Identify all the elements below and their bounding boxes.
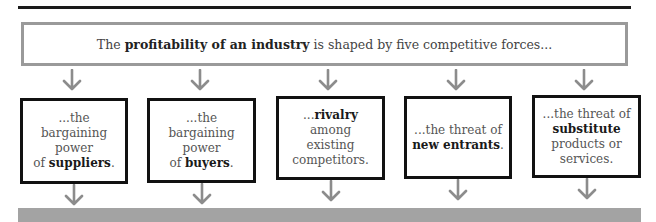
force-text: ...the bargainingpowerof buyers.: [154, 111, 249, 171]
force-box: ...rivalry amongexistingcompetitors.: [276, 96, 385, 180]
arrow-down-icon: [192, 183, 212, 205]
arrow-down-icon: [62, 69, 82, 91]
force-box: ...the bargainingpowerof suppliers.: [20, 98, 128, 184]
force-box: ...the threat ofnew entrants.: [404, 96, 512, 179]
arrow-down-icon: [318, 69, 338, 91]
bottom-band: [18, 208, 641, 222]
force-box: ...the threat ofsubstituteproducts orser…: [532, 95, 641, 178]
force-text: ...the threat ofnew entrants.: [412, 123, 504, 153]
arrow-down-icon: [577, 178, 597, 200]
industry-profitability-box: The profitability of an industry is shap…: [21, 22, 628, 66]
arrow-down-icon: [574, 69, 594, 91]
arrow-down-icon: [448, 179, 468, 201]
arrow-down-icon: [64, 184, 84, 206]
top-rule: [18, 6, 631, 9]
arrow-down-icon: [446, 69, 466, 91]
arrow-down-icon: [190, 69, 210, 91]
arrow-down-icon: [321, 180, 341, 202]
force-text: ...the threat ofsubstituteproducts orser…: [543, 107, 631, 167]
force-text: ...the bargainingpowerof suppliers.: [27, 111, 121, 171]
force-text: ...rivalry amongexistingcompetitors.: [283, 108, 378, 168]
force-box: ...the bargainingpowerof buyers.: [147, 98, 256, 183]
header-text: The profitability of an industry is shap…: [97, 37, 552, 52]
